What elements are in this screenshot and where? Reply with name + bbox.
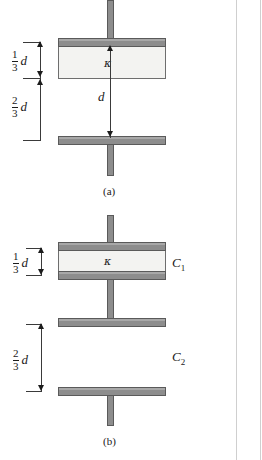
lead-wire-bottom-b (107, 395, 114, 426)
dimension-label-two-thirds-b: 2 3 d (13, 348, 28, 372)
fraction-two-thirds-a: 2 3 (12, 95, 18, 119)
fraction-variable-a-lower: d (21, 99, 28, 115)
dim-arrow-lower-top-a (37, 79, 43, 85)
fraction-numerator: 2 (13, 348, 19, 360)
fraction-denominator: 3 (12, 62, 18, 74)
dim-arrow-upper-top-b (38, 247, 44, 253)
gap-label-d-a: d (98, 90, 105, 103)
dim-tick-c1-bottom-b (26, 275, 42, 276)
panel-caption-b: (b) (103, 436, 116, 447)
lead-wire-connecting-b (107, 279, 114, 321)
capacitor-label-c1: C1 (172, 256, 185, 273)
capacitor-label-c2-sub: 2 (181, 357, 186, 367)
fraction-numerator: 2 (12, 95, 18, 107)
dim-arrow-lower-bottom-b (38, 385, 44, 391)
fraction-variable-a-upper: d (21, 53, 28, 69)
dim-arrow-lower-top-b (38, 323, 44, 329)
dim-tick-c2-bottom-b (26, 391, 42, 392)
dielectric-slab-b (58, 250, 166, 272)
dimension-label-one-third-b: 1 3 d (13, 251, 28, 275)
dimension-label-one-third-a: 1 3 d (12, 49, 27, 73)
dim-arrow-upper-bottom-a (37, 71, 43, 77)
lead-wire-bottom-a (107, 144, 114, 176)
dim-arrow-upper-bottom-b (38, 269, 44, 275)
capacitor-label-c2: C2 (172, 350, 185, 367)
page-margin-rule (236, 0, 237, 460)
gap-dimension-line-a (110, 46, 111, 138)
fraction-numerator: 1 (13, 251, 19, 263)
fraction-one-third-b: 1 3 (13, 251, 19, 275)
gap-arrow-bottom-a (107, 131, 113, 137)
capacitor-label-c1-base: C (172, 255, 181, 270)
fraction-two-thirds-b: 2 3 (13, 348, 19, 372)
gap-arrow-top-a (107, 45, 113, 51)
kappa-symbol-b: κ (104, 256, 111, 267)
capacitor-plate-c2-top (58, 318, 166, 327)
lead-wire-top-b (107, 215, 114, 243)
dimension-label-two-thirds-a: 2 3 d (12, 95, 27, 119)
fraction-one-third-a: 1 3 (12, 49, 18, 73)
fraction-variable-b-upper: d (22, 255, 29, 271)
panel-caption-a: (a) (103, 186, 115, 197)
capacitor-label-c1-sub: 1 (181, 263, 186, 273)
dim-arrow-upper-top-a (37, 41, 43, 47)
fraction-denominator: 3 (12, 108, 18, 120)
fraction-denominator: 3 (13, 264, 19, 276)
physics-figure: κ d 1 3 d 2 3 d (0, 0, 262, 460)
lead-wire-top-a (107, 0, 114, 40)
fraction-denominator: 3 (13, 361, 19, 373)
dim-line-lower-b (41, 324, 42, 391)
dim-line-lower-a (40, 78, 41, 140)
fraction-numerator: 1 (12, 49, 18, 61)
dielectric-bottom-edge-a (58, 78, 166, 79)
dim-tick-bottom-a (23, 140, 41, 141)
capacitor-label-c2-base: C (172, 349, 181, 364)
fraction-variable-b-lower: d (22, 352, 29, 368)
capacitor-plate-c1-top (58, 242, 166, 251)
page-edge-rule (260, 0, 261, 460)
